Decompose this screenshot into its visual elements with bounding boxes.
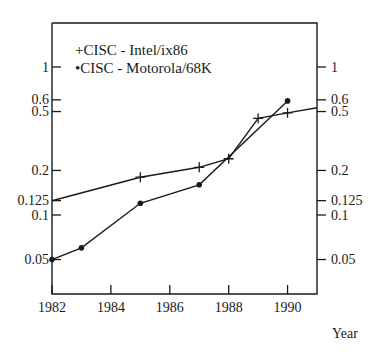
dot-marker-icon (49, 257, 55, 263)
legend-label-motorola: CISC - Motorola/68K (80, 60, 212, 76)
plus-marker-icon (283, 108, 293, 118)
y-tick-label-left: 0.1 (32, 208, 50, 223)
x-tick-label: 1982 (38, 300, 66, 315)
legend-item-motorola: •CISC - Motorola/68K (75, 60, 212, 76)
legend-label-intel: CISC - Intel/ix86 (83, 42, 188, 58)
data-series (49, 98, 317, 262)
dot-marker-icon (79, 245, 85, 251)
dot-marker-icon (196, 182, 202, 188)
legend-item-intel: +CISC - Intel/ix86 (75, 42, 188, 58)
y-tick-label-left: 1 (42, 60, 49, 75)
legend: +CISC - Intel/ix86 •CISC - Motorola/68K (75, 42, 212, 76)
x-tick-label: 1990 (274, 300, 302, 315)
left-y-axis: 10.60.50.20.1250.10.05 (18, 60, 62, 268)
plus-marker-icon (135, 172, 145, 182)
y-tick-label-right: 1 (331, 60, 338, 75)
y-tick-label-right: 0.2 (331, 163, 349, 178)
y-tick-label-right: 0.1 (331, 208, 349, 223)
y-tick-label-right: 0.5 (331, 104, 349, 119)
y-tick-label-left: 0.2 (32, 163, 50, 178)
x-tick-label: 1986 (156, 300, 184, 315)
dot-marker-icon (138, 200, 144, 206)
y-tick-label-left: 0.05 (25, 252, 50, 267)
right-y-axis: 10.60.50.20.1250.10.05 (317, 60, 363, 268)
line-chart: 10.60.50.20.1250.10.05 10.60.50.20.1250.… (0, 0, 374, 352)
y-tick-label-left: 0.5 (32, 104, 50, 119)
plus-marker-icon (224, 154, 234, 164)
y-tick-label-right: 0.125 (331, 193, 363, 208)
plus-marker-icon (253, 113, 263, 123)
plus-marker-icon: + (75, 42, 83, 58)
x-axis: 19821984198619881990 (38, 285, 302, 315)
x-axis-label: Year (332, 326, 358, 341)
y-tick-label-left: 0.125 (18, 193, 50, 208)
dot-marker-icon (285, 98, 291, 104)
y-tick-label-right: 0.05 (331, 252, 356, 267)
x-tick-label: 1988 (215, 300, 243, 315)
motorola-line (52, 101, 288, 260)
x-tick-label: 1984 (97, 300, 125, 315)
plus-marker-icon (194, 162, 204, 172)
intel-line (52, 108, 317, 201)
